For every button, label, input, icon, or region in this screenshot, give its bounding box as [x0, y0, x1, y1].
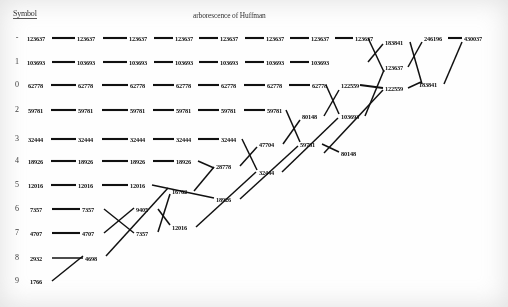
- node-r4c1: 59781: [28, 107, 43, 114]
- edge-merge: [240, 147, 257, 166]
- edge-merge: [283, 120, 300, 144]
- node-r3c1: 62778: [28, 82, 43, 89]
- edge-merge: [242, 139, 257, 170]
- edge-merge: [104, 209, 134, 233]
- node-m16762: 16762: [172, 188, 187, 195]
- symbol-0: 0: [15, 81, 19, 89]
- node-r2c5: 103693: [220, 59, 238, 66]
- node-r2c6: 103693: [266, 59, 284, 66]
- node-m7357b: 7357: [136, 230, 148, 237]
- node-r4c3: 59781: [130, 107, 145, 114]
- node-r2c4: 103693: [175, 59, 193, 66]
- huffman-tree-diagram: Symbol arborescence of Huffman -10234567…: [0, 0, 508, 307]
- edge-merge: [368, 38, 384, 72]
- node-r2c3: 103693: [129, 59, 147, 66]
- node-m123637b: 123637: [385, 64, 403, 71]
- node-r8c2: 7357: [82, 206, 94, 213]
- edge-merge: [158, 209, 170, 225]
- edge-merge: [324, 90, 339, 116]
- edge-merge: [158, 194, 170, 232]
- node-r8c1: 7357: [30, 206, 42, 213]
- node-m183841b: 183841: [419, 81, 437, 88]
- node-r3c7: 62778: [312, 82, 327, 89]
- edge-merge: [444, 42, 462, 84]
- edge-merge: [365, 70, 384, 116]
- node-r3c2: 62778: [78, 82, 93, 89]
- node-r6c3: 18926: [130, 158, 145, 165]
- node-r2c1: 103693: [27, 59, 45, 66]
- node-r5c5: 32444: [221, 136, 236, 143]
- node-r1c4: 123637: [175, 35, 193, 42]
- node-r6c4: 18926: [176, 158, 191, 165]
- node-r2c2: 103693: [77, 59, 95, 66]
- node-r1c8: 123637: [355, 35, 373, 42]
- node-m32444b: 32444: [259, 169, 274, 176]
- symbol-dash: -: [16, 34, 19, 42]
- node-r7c3: 12016: [130, 182, 145, 189]
- node-r1c3: 123637: [129, 35, 147, 42]
- node-r5c3: 32444: [130, 136, 145, 143]
- symbol-5: 5: [15, 181, 19, 189]
- node-r4c2: 59781: [78, 107, 93, 114]
- node-r5c1: 32444: [28, 136, 43, 143]
- symbol-7: 7: [15, 229, 19, 237]
- edge-merge: [326, 85, 339, 114]
- symbol-9: 9: [15, 277, 19, 285]
- node-r1c5: 123637: [220, 35, 238, 42]
- node-r3c3: 62778: [130, 82, 145, 89]
- node-m80148a: 80148: [302, 113, 317, 120]
- edge-merge: [324, 90, 383, 153]
- node-m18926b: 18926: [216, 196, 231, 203]
- node-r7c2: 12016: [78, 182, 93, 189]
- node-r1c7: 123637: [311, 35, 329, 42]
- page-vignette: [0, 0, 508, 307]
- node-r4c6: 59781: [267, 107, 282, 114]
- node-m246196: 246196: [424, 35, 442, 42]
- node-r1c2: 123637: [77, 35, 95, 42]
- node-m28778: 28778: [216, 163, 231, 170]
- node-r2c7: 103693: [311, 59, 329, 66]
- node-m9405: 9405: [136, 206, 148, 213]
- node-m430037: 430037: [464, 35, 482, 42]
- node-m103693c: 103693: [341, 113, 359, 120]
- symbol-3: 3: [15, 135, 19, 143]
- edge-merge: [198, 161, 214, 168]
- node-r4c4: 59781: [176, 107, 191, 114]
- node-r5c2: 32444: [78, 136, 93, 143]
- symbol-1: 1: [15, 58, 19, 66]
- edge-merge: [322, 144, 339, 152]
- node-r10c1: 2932: [30, 255, 42, 262]
- node-m122559a: 122559: [341, 82, 359, 89]
- edge-merge: [286, 110, 300, 142]
- node-r6c1: 18926: [28, 158, 43, 165]
- node-m47704: 47704: [259, 141, 274, 148]
- node-r11c1: 1766: [30, 278, 42, 285]
- symbol-6: 6: [15, 205, 19, 213]
- node-m4698: 4698: [85, 255, 97, 262]
- node-m59781b: 59781: [300, 141, 315, 148]
- node-r5c4: 32444: [176, 136, 191, 143]
- node-r3c5: 62778: [221, 82, 236, 89]
- node-m122559b: 122559: [385, 85, 403, 92]
- node-r3c6: 62778: [267, 82, 282, 89]
- symbol-2: 2: [15, 106, 19, 114]
- node-m80148b: 80148: [341, 150, 356, 157]
- edge-merge: [194, 167, 214, 191]
- edge-merge: [52, 256, 83, 281]
- node-m183841a: 183841: [385, 39, 403, 46]
- edge-horizontal: [360, 85, 383, 88]
- diagram-title: arborescence of Huffman: [193, 11, 266, 20]
- node-r1c6: 123637: [266, 35, 284, 42]
- node-r7c1: 12016: [28, 182, 43, 189]
- node-r1c1: 123637: [27, 35, 45, 42]
- edge-merge: [410, 42, 422, 84]
- symbol-8: 8: [15, 254, 19, 262]
- node-r9c2: 4707: [82, 230, 94, 237]
- symbol-column-header: Symbol: [13, 9, 37, 19]
- edge-merge: [408, 42, 422, 67]
- node-m12016b: 12016: [172, 224, 187, 231]
- node-r3c4: 62778: [176, 82, 191, 89]
- edge-merge: [106, 188, 168, 256]
- edge-merge: [368, 44, 383, 62]
- node-r6c2: 18926: [78, 158, 93, 165]
